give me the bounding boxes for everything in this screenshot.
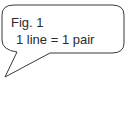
figure-title: Fig. 1 [11, 16, 44, 29]
figure-caption: 1 line = 1 pair [16, 33, 94, 46]
